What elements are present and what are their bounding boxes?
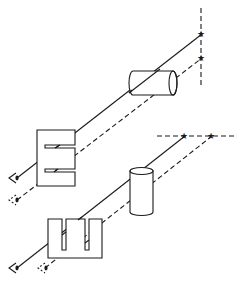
bottom-star-2: ★ [207, 131, 215, 141]
vertical-cylinder [130, 168, 153, 216]
optics-diagram: ★ ★ ★ ★ [0, 0, 244, 284]
horizontal-cylinder [129, 69, 177, 95]
top-eye-icon-2 [9, 195, 19, 205]
top-star-2: ★ [197, 53, 205, 63]
bottom-star-1: ★ [180, 131, 188, 141]
top-star-1: ★ [197, 29, 205, 39]
e-shaped-slotted-plate [37, 130, 75, 186]
comb-slotted-plate [48, 217, 102, 258]
top-setup: ★ ★ [9, 8, 205, 205]
bottom-eye-icon-1 [9, 263, 19, 273]
top-eye-icon-1 [9, 173, 19, 183]
bottom-eye-icon-2 [38, 263, 48, 273]
